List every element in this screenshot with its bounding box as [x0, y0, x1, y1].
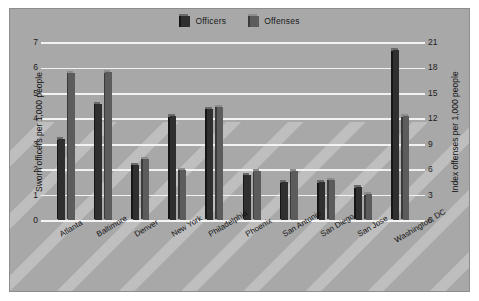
- bar-face: [291, 171, 298, 221]
- bar-group: [84, 43, 121, 221]
- bar-face: [393, 50, 400, 221]
- x-axis-labels: AtlantaBaltimoreDenverNew YorkPhiladelph…: [47, 225, 419, 292]
- bar-face: [105, 72, 112, 221]
- legend-label-officers: Officers: [195, 16, 226, 26]
- bar-group: [382, 43, 419, 221]
- bar-officers[interactable]: [168, 114, 176, 221]
- chart-legend: Officers Offenses: [10, 14, 469, 27]
- bar-offenses[interactable]: [141, 157, 149, 221]
- bar-officers[interactable]: [391, 48, 399, 221]
- bar-offenses[interactable]: [178, 168, 186, 221]
- legend-swatch-officers-icon: [179, 14, 190, 27]
- y-axis-right-tick-label: 9: [428, 140, 433, 149]
- bar-offenses[interactable]: [104, 70, 112, 221]
- bar-group: [233, 43, 270, 221]
- y-axis-right-tick-label: 3: [428, 191, 433, 200]
- bar-offenses[interactable]: [253, 169, 261, 221]
- bar-offenses[interactable]: [67, 71, 75, 221]
- y-axis-right-title: Index offenses per 1,000 people: [450, 71, 460, 192]
- swatch-face: [250, 16, 259, 27]
- bar-group: [159, 43, 196, 221]
- bar-group: [307, 43, 344, 221]
- bar-officers[interactable]: [354, 185, 362, 221]
- legend-item-offenses: Offenses: [248, 14, 299, 27]
- bar-face: [207, 109, 214, 221]
- bar-face: [68, 73, 75, 221]
- y-axis-right-tick-label: 21: [428, 38, 437, 47]
- bar-face: [143, 159, 150, 221]
- bar-face: [366, 194, 373, 221]
- swatch-face: [181, 16, 190, 27]
- bar-face: [170, 116, 177, 221]
- bar-face: [58, 139, 65, 221]
- bar-group: [196, 43, 233, 221]
- bar-face: [133, 165, 140, 221]
- y-axis-right-tick-label: 6: [428, 165, 433, 174]
- plot-area: 01234567 036912151821 Sworn officers per…: [47, 43, 419, 221]
- chart-panel: Officers Offenses 01234567 036912151821 …: [9, 8, 470, 292]
- legend-label-offenses: Offenses: [264, 16, 299, 26]
- bar-group: [270, 43, 307, 221]
- chart-container: Officers Offenses 01234567 036912151821 …: [0, 0, 479, 301]
- y-axis-right-tick-label: 12: [428, 114, 437, 123]
- bar-officers[interactable]: [94, 102, 102, 222]
- y-axis-left-title: Sworn officers per 1,000 people: [34, 72, 44, 192]
- bar-officers[interactable]: [280, 180, 288, 221]
- bar-face: [95, 104, 102, 222]
- y-axis-right-tick-label: 18: [428, 63, 437, 72]
- bar-offenses[interactable]: [290, 169, 298, 221]
- bar-officers[interactable]: [131, 163, 139, 221]
- bar-officers[interactable]: [205, 107, 213, 221]
- bar-face: [180, 170, 187, 221]
- bar-offenses[interactable]: [327, 178, 335, 221]
- y-axis-left-tick-label: 0: [33, 216, 38, 225]
- y-axis-right-tick-label: 15: [428, 89, 437, 98]
- bar-offenses[interactable]: [215, 105, 223, 221]
- bar-group: [345, 43, 382, 221]
- bar-face: [356, 187, 363, 221]
- bar-officers[interactable]: [57, 137, 65, 221]
- bar-face: [217, 107, 224, 221]
- legend-item-officers: Officers: [179, 14, 226, 27]
- y-axis-left-tick-label: 6: [33, 63, 38, 72]
- bar-group: [121, 43, 158, 221]
- bar-offenses[interactable]: [364, 192, 372, 221]
- bar-face: [281, 182, 288, 221]
- bar-face: [403, 116, 410, 221]
- bar-groups: [47, 43, 419, 221]
- bar-offenses[interactable]: [401, 114, 409, 221]
- y-axis-left-tick-label: 7: [33, 38, 38, 47]
- legend-swatch-offenses-icon: [248, 14, 259, 27]
- bar-face: [254, 171, 261, 221]
- bar-face: [329, 180, 336, 221]
- bar-group: [47, 43, 84, 221]
